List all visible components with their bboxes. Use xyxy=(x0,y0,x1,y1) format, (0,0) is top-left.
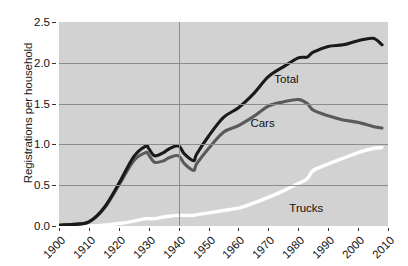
series-lines xyxy=(59,22,388,226)
x-tick-label: 1900 xyxy=(38,234,68,264)
y-tick-label: 0.5 xyxy=(10,179,50,191)
x-tick-label: 1970 xyxy=(247,234,277,264)
x-tick-label: 1980 xyxy=(277,234,307,264)
gridline-horizontal xyxy=(59,104,388,105)
gridline-horizontal xyxy=(59,63,388,64)
y-tick-mark xyxy=(52,104,56,105)
y-tick-mark xyxy=(52,22,56,23)
y-tick-mark xyxy=(52,63,56,64)
x-tick-label: 1990 xyxy=(307,234,337,264)
series-line-trucks xyxy=(59,148,382,226)
x-tick-label: 1940 xyxy=(157,234,187,264)
x-tick-label: 1920 xyxy=(98,234,128,264)
x-tick-label: 1930 xyxy=(128,234,158,264)
series-line-total xyxy=(59,38,382,225)
chart-root: Registrations per household 0.00.51.01.5… xyxy=(0,0,408,266)
y-tick-mark xyxy=(52,226,56,227)
series-label-trucks: Trucks xyxy=(289,202,323,214)
series-label-cars: Cars xyxy=(250,117,274,129)
y-tick-mark xyxy=(52,185,56,186)
y-tick-label: 1.5 xyxy=(10,98,50,110)
y-tick-label: 1.0 xyxy=(10,138,50,150)
y-tick-label: 2.0 xyxy=(10,57,50,69)
gridline-horizontal xyxy=(59,144,388,145)
y-tick-label: 0.0 xyxy=(10,220,50,232)
x-tick-label: 1960 xyxy=(217,234,247,264)
x-tick-label: 1950 xyxy=(187,234,217,264)
x-tick-label: 2010 xyxy=(367,234,397,264)
gridline-vertical-1940 xyxy=(179,22,180,226)
gridline-horizontal xyxy=(59,185,388,186)
x-tick-label: 1910 xyxy=(68,234,98,264)
y-tick-label: 2.5 xyxy=(10,16,50,28)
gridline-horizontal xyxy=(59,226,388,227)
series-label-total: Total xyxy=(274,73,298,85)
x-tick-label: 2000 xyxy=(337,234,367,264)
plot-area: TotalCarsTrucks xyxy=(57,20,390,228)
y-tick-mark xyxy=(52,144,56,145)
